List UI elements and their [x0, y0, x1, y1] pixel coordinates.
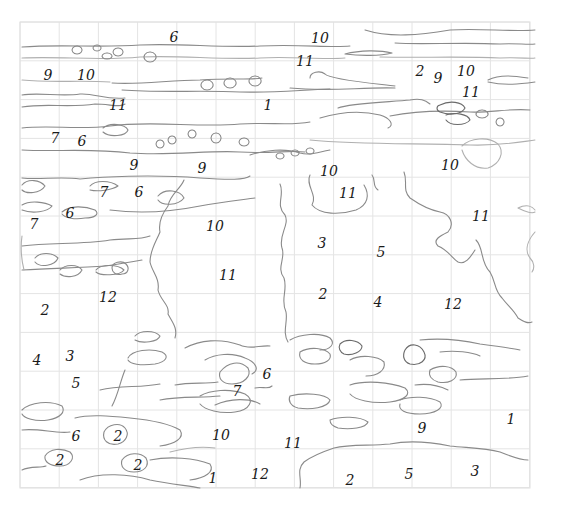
- region-number: 2: [415, 63, 425, 79]
- region-number: 3: [471, 463, 480, 479]
- region-number: 6: [263, 366, 272, 382]
- region-number: 6: [72, 428, 81, 444]
- region-number: 10: [441, 157, 459, 173]
- region-number: 1: [507, 411, 516, 427]
- region-number: 9: [418, 420, 427, 436]
- region-number: 11: [339, 185, 357, 201]
- region-number: 4: [32, 352, 42, 368]
- region-number: 7: [100, 184, 109, 200]
- region-number: 10: [457, 63, 475, 79]
- region-number: 10: [320, 163, 338, 179]
- region-number: 4: [373, 294, 383, 310]
- region-number: 5: [405, 466, 414, 482]
- region-number: 11: [219, 267, 237, 283]
- region-number: 2: [133, 457, 143, 473]
- region-number: 9: [198, 160, 207, 176]
- region-number: 11: [109, 97, 127, 113]
- region-number: 11: [472, 208, 490, 224]
- region-number: 11: [462, 84, 480, 100]
- region-number: 6: [170, 29, 179, 45]
- region-number: 7: [51, 130, 60, 146]
- region-number: 10: [206, 218, 224, 234]
- region-numbers: 6101191029101111176991010761176101135112…: [30, 29, 516, 488]
- region-number: 2: [113, 428, 123, 444]
- region-number: 3: [318, 235, 327, 251]
- region-number: 2: [345, 472, 355, 488]
- region-number: 7: [233, 383, 242, 399]
- region-number: 2: [40, 302, 50, 318]
- region-number: 12: [251, 466, 269, 482]
- region-number: 9: [434, 70, 443, 86]
- region-number: 6: [78, 133, 87, 149]
- region-number: 6: [66, 205, 75, 221]
- region-number: 11: [296, 53, 314, 69]
- region-number: 2: [318, 286, 328, 302]
- region-number: 7: [30, 216, 39, 232]
- region-number: 5: [72, 375, 81, 391]
- region-number: 10: [212, 427, 230, 443]
- region-number: 12: [99, 289, 117, 305]
- region-number: 6: [135, 184, 144, 200]
- region-number: 11: [284, 435, 302, 451]
- region-number: 1: [264, 97, 273, 113]
- region-number: 3: [66, 348, 75, 364]
- region-number: 9: [44, 67, 53, 83]
- region-number: 10: [311, 30, 329, 46]
- region-number: 10: [77, 67, 95, 83]
- region-number: 2: [55, 452, 65, 468]
- region-number: 5: [377, 244, 386, 260]
- region-number: 12: [444, 296, 462, 312]
- region-number: 9: [130, 157, 139, 173]
- region-number: 1: [209, 470, 218, 486]
- paint-by-numbers-canvas: 6101191029101111176991010761176101135112…: [0, 0, 568, 524]
